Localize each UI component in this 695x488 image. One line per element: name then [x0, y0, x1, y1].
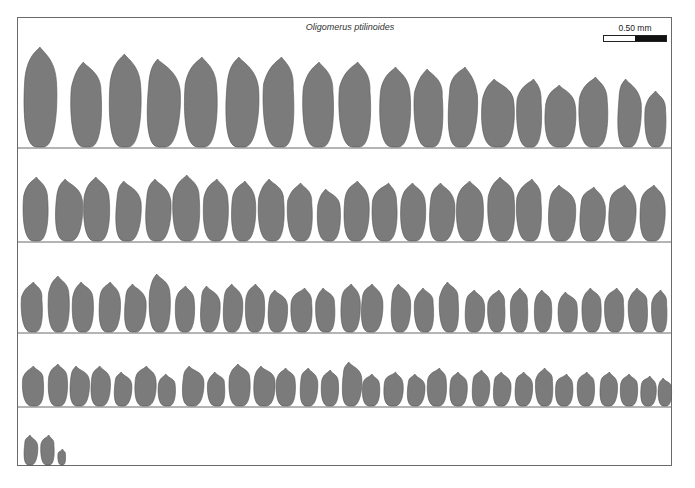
grain-outline [339, 62, 371, 147]
grain-outline [450, 372, 467, 406]
grain-outline [577, 372, 594, 406]
grain-outline [276, 368, 295, 406]
grain-outline [605, 288, 624, 332]
grain-outline [430, 183, 455, 241]
grain-outline [84, 177, 110, 241]
grain-outline [268, 290, 287, 332]
grain-outline [201, 286, 221, 332]
grain-outline [640, 185, 665, 241]
grain-outline [628, 288, 647, 332]
grain-outline [384, 372, 403, 406]
grain-outline [146, 179, 171, 241]
grain-outline [48, 276, 69, 332]
grain-outline [361, 284, 382, 332]
grain-outline [414, 69, 443, 147]
grain-outline [362, 374, 379, 406]
grain-outline [56, 179, 83, 241]
grain-outline [645, 91, 666, 147]
grain-outline [448, 67, 477, 147]
grain-outline [549, 185, 576, 241]
grain-outline [317, 189, 340, 241]
grain-outline [207, 372, 224, 406]
grain-outline [341, 284, 360, 332]
grain-outline [488, 290, 505, 332]
grain-outline [579, 77, 608, 147]
grain-outline [321, 370, 338, 406]
grain-outline [427, 368, 446, 406]
grain-outline [70, 366, 89, 406]
grain-outline [158, 374, 175, 406]
grain-outline [226, 57, 259, 147]
grain-outline [291, 288, 312, 332]
grain-outline [223, 284, 243, 332]
grain-outline [344, 181, 369, 241]
grain-outline [99, 282, 120, 332]
grain-outline [580, 187, 605, 241]
grain-outline [58, 449, 66, 465]
grain-outline [658, 378, 671, 406]
grain-outline [380, 67, 411, 147]
grain-outline [558, 292, 577, 332]
grain-outline [342, 362, 362, 406]
grain-outline [254, 366, 275, 406]
grain-outline [184, 57, 217, 147]
grain-outline [229, 364, 250, 406]
grain-outline [149, 274, 170, 332]
grain-outline [641, 376, 657, 406]
grain-outline [48, 364, 67, 406]
grain-outline [482, 79, 515, 147]
grain-outline [173, 175, 200, 241]
grain-outline [609, 185, 636, 241]
grain-outline [147, 59, 180, 147]
grain-outline [414, 288, 433, 332]
grain-outline [600, 372, 618, 406]
grain-outline [515, 372, 533, 406]
grain-outline [516, 179, 541, 241]
grain-outline [135, 366, 156, 406]
grain-outline [72, 282, 93, 332]
grain-outline [391, 284, 410, 332]
grain-outline [263, 57, 294, 147]
grain-outline [652, 290, 667, 332]
grain-outline [109, 54, 141, 147]
grain-outline [620, 374, 637, 406]
grain-outline [232, 181, 256, 241]
grain-outline [24, 435, 38, 465]
grain-outline [517, 79, 542, 147]
grain-outline [407, 374, 425, 406]
grain-outline [535, 368, 552, 406]
grain-outline [545, 85, 576, 147]
grain-outlines [0, 0, 695, 488]
grain-outline [372, 183, 397, 241]
grain-outline [24, 47, 57, 147]
grain-outline [258, 179, 284, 241]
grain-outline [71, 62, 102, 147]
grain-outline [472, 370, 490, 406]
grain-outline [21, 282, 42, 332]
grain-outline [510, 288, 527, 332]
grain-outline [91, 366, 110, 406]
grain-outline [41, 435, 54, 465]
grain-outline [287, 183, 312, 241]
grain-outline [114, 372, 132, 406]
grain-outline [300, 368, 318, 406]
grain-outline [303, 62, 334, 147]
specimen-figure: Oligomerus ptilinoides 0.50 mm [0, 0, 695, 488]
grain-outline [203, 179, 228, 241]
grain-outline [534, 290, 551, 332]
grain-outline [488, 177, 515, 241]
grain-outline [175, 286, 194, 332]
grain-outline [401, 183, 426, 241]
grain-outline [316, 288, 335, 332]
grain-outline [23, 177, 48, 241]
grain-outline [116, 181, 141, 241]
grain-outline [125, 284, 147, 332]
grain-outline [618, 79, 642, 147]
grain-outline [245, 284, 264, 332]
grain-outline [582, 288, 601, 332]
grain-outline [456, 181, 483, 241]
grain-outline [182, 366, 203, 406]
grain-outline [465, 290, 484, 332]
grain-outline [22, 366, 43, 406]
grain-outline [439, 282, 458, 332]
